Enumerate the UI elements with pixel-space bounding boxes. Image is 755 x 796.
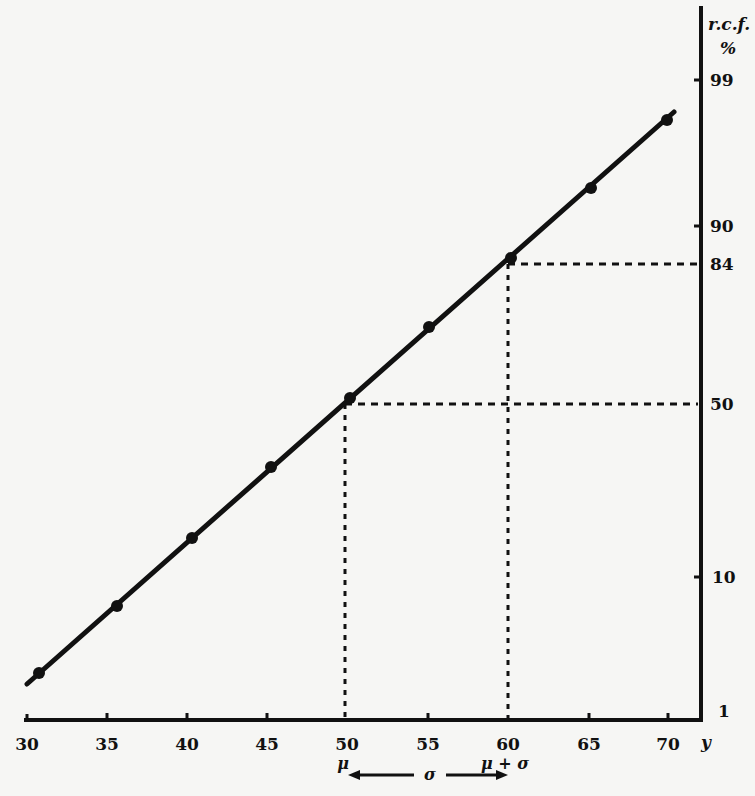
y-tick-label: 50 [710, 394, 734, 414]
x-tick-label: 65 [577, 734, 601, 754]
axes-frame [24, 6, 701, 720]
y-axis-title-unit: % [720, 38, 736, 58]
data-point [505, 252, 517, 264]
x-tick-label: 40 [175, 734, 199, 754]
y-tick-label: 99 [710, 70, 734, 90]
x-axis-tick-labels: 30 35 40 45 50 55 60 65 70 [15, 734, 680, 754]
data-point [265, 461, 277, 473]
mu-label: μ [337, 754, 349, 773]
data-point [33, 667, 45, 679]
x-tick-label: 55 [416, 734, 440, 754]
y-tick-label: 90 [710, 216, 734, 236]
data-point [186, 532, 198, 544]
data-point [661, 114, 673, 126]
y-axis-title: r.c.f. [708, 14, 750, 34]
y-tick-label: 10 [712, 567, 736, 587]
x-tick-label: 30 [15, 734, 39, 754]
reference-lines [345, 264, 698, 718]
y-axis-tick-labels: 99 90 84 50 10 1 [710, 70, 736, 721]
x-axis-title: y [700, 732, 712, 752]
probability-plot-chart: 30 35 40 45 50 55 60 65 70 y 99 90 84 50… [0, 0, 755, 796]
x-tick-label: 70 [656, 734, 680, 754]
x-tick-label: 50 [335, 734, 359, 754]
data-point [111, 600, 123, 612]
x-tick-label: 45 [255, 734, 279, 754]
y-tick-label: 1 [718, 701, 730, 721]
x-tick-label: 60 [496, 734, 520, 754]
data-point [585, 182, 597, 194]
data-point [423, 321, 435, 333]
chart-canvas: 30 35 40 45 50 55 60 65 70 y 99 90 84 50… [0, 0, 755, 796]
data-point [344, 392, 356, 404]
y-tick-label: 84 [710, 254, 734, 274]
x-tick-label: 35 [95, 734, 119, 754]
mu-plus-sigma-label: μ + σ [481, 754, 529, 773]
sigma-label: σ [424, 765, 436, 784]
